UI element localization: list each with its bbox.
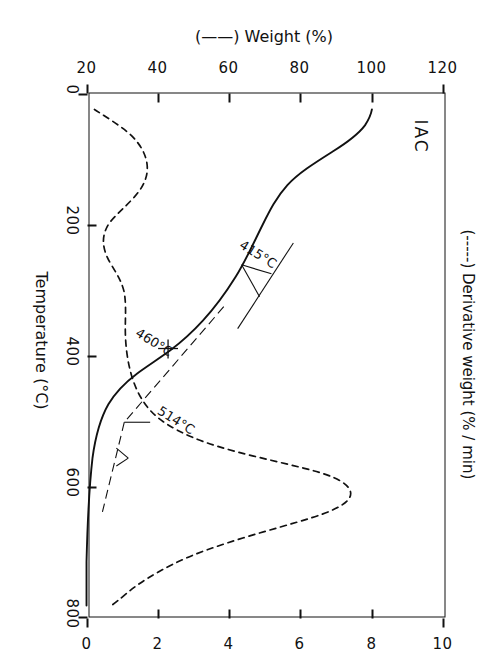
curves-layer — [90, 94, 445, 617]
xticklabel-0: 0 — [63, 85, 81, 95]
y2ticklabel-4: 4 — [209, 635, 249, 653]
y-axis-title: (——) Weight (%) — [175, 28, 355, 47]
y2ticklabel-2: 2 — [138, 635, 178, 653]
y2ticklabel-10: 10 — [419, 635, 467, 653]
derivative-curve-dashed — [95, 110, 351, 606]
yticklabel-20: 20 — [67, 59, 107, 77]
y2ticklabel-6: 6 — [280, 635, 320, 653]
x-axis-title: Temperature (°C) — [32, 272, 51, 410]
y2tick-10 — [443, 619, 445, 628]
yticklabel-40: 40 — [138, 59, 178, 77]
y2-axis-title: (-----) Derivative weight (% / min) — [459, 230, 477, 480]
yticklabel-100: 100 — [348, 59, 396, 77]
xticklabel-800: 800 — [63, 599, 81, 629]
yticklabel-80: 80 — [280, 59, 320, 77]
y2tick-0 — [87, 619, 89, 628]
xticklabel-200: 200 — [63, 206, 81, 236]
y2ticklabel-8: 8 — [352, 635, 392, 653]
plot-frame: IAC — [89, 93, 446, 618]
xticklabel-600: 600 — [63, 468, 81, 498]
y2ticklabel-0: 0 — [67, 635, 107, 653]
weight-curve-solid — [87, 110, 372, 606]
yticklabel-60: 60 — [209, 59, 249, 77]
yticklabel-120: 120 — [419, 59, 467, 77]
xticklabel-400: 400 — [63, 337, 81, 367]
ytick-120 — [443, 85, 445, 94]
